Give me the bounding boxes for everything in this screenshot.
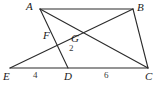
measure-label-ED: 4: [33, 71, 38, 80]
segment-BC: [133, 9, 148, 68]
segment-AC: [40, 9, 148, 68]
vertex-label-F: F: [43, 30, 50, 41]
segments-group: [10, 9, 148, 68]
vertex-label-B: B: [137, 2, 144, 13]
measure-label-GD: 2: [69, 44, 74, 53]
vertex-label-E: E: [3, 71, 10, 82]
vertex-label-A: A: [26, 1, 33, 12]
vertex-label-D: D: [64, 71, 72, 82]
geometry-canvas: [0, 0, 159, 87]
measure-label-DC: 6: [104, 71, 109, 80]
vertex-label-C: C: [145, 71, 152, 82]
geometry-figure: A B C D E F G 4 6 2: [0, 0, 159, 87]
